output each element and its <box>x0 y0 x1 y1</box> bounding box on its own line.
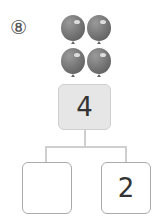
whole-box: 4 <box>58 84 111 130</box>
connector-left <box>45 146 47 162</box>
connector-vertical <box>84 130 86 147</box>
balloons-icon <box>60 14 112 80</box>
part-box-right: 2 <box>101 162 151 214</box>
connector-horizontal <box>45 146 126 148</box>
connector-right <box>125 146 127 162</box>
problem-number: ⑧ <box>10 18 27 37</box>
part-box-left[interactable] <box>22 162 72 214</box>
